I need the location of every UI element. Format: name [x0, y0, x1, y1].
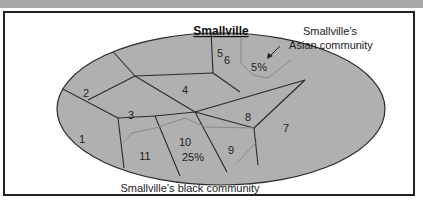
district-3: 3	[128, 109, 134, 121]
district-10: 10	[179, 136, 191, 148]
district-1: 1	[79, 133, 85, 145]
district-11: 11	[139, 150, 150, 162]
asian-pct-label: 5%	[251, 61, 267, 73]
black-pct-label: 25%	[182, 151, 204, 163]
district-8: 8	[245, 111, 251, 123]
smallville-map: Smallville 5 6 5% 4 2 3 8 7 1 10 9 11 25…	[0, 0, 423, 208]
district-5: 5	[217, 47, 223, 59]
district-7: 7	[283, 122, 289, 134]
asian-annotation-line1: Smallville’s	[303, 25, 358, 37]
district-6: 6	[224, 54, 230, 66]
district-2: 2	[83, 87, 89, 99]
district-4: 4	[182, 84, 188, 96]
district-9: 9	[228, 144, 234, 156]
asian-annotation-line2: Asian community	[289, 39, 373, 51]
black-annotation: Smallville’s black community	[120, 182, 260, 194]
map-title: Smallville	[193, 24, 249, 38]
